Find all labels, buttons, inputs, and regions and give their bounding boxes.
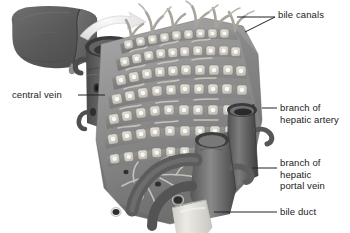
label-bile-duct: bile duct — [280, 206, 316, 218]
label-central-vein: central vein — [12, 89, 62, 101]
label-branch-of-hepatic-portal-vein: branch of hepatic portal vein — [280, 157, 325, 192]
label-branch-of-hepatic-artery: branch of hepatic artery — [280, 102, 339, 125]
liver-lobule-figure: bile canals central vein branch of hepat… — [0, 0, 350, 233]
label-bile-canals: bile canals — [278, 9, 324, 21]
